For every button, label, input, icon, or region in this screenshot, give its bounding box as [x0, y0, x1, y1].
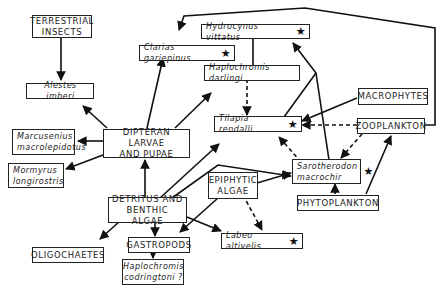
node-haplochromis-darlingi: Haplochromis darlingi: [204, 65, 300, 81]
node-label: PHYTOPLANKTON: [297, 198, 379, 209]
node-marcusenius-macrolepidotus: Marcusenius macrolepidotus: [12, 129, 75, 155]
node-mormyrus-longirostris: Mormyrus longirostris: [8, 163, 64, 188]
node-label-line2: longirostris: [13, 176, 64, 187]
node-tilapia-rendalli: Tilapia rendalli ★: [214, 116, 302, 132]
node-dipteran-larvae-pupae: DIPTERAN LARVAE AND PUPAE: [103, 129, 190, 158]
node-label-line2: macrolepidotus: [17, 142, 86, 153]
edge-zooplankton-sarotherodon: [341, 134, 362, 158]
node-label-line2: AND PUPAE: [107, 149, 186, 160]
star-icon: ★: [288, 119, 298, 130]
node-macrophytes: MACROPHYTES: [358, 88, 428, 105]
edge-sarotherodon-hydrocynus: [316, 73, 329, 160]
star-icon: ★: [364, 166, 374, 177]
edge-epiphytic-labeo: [243, 195, 262, 230]
node-haplochromis-codringtoni: Haplochromis codringtoni ?: [122, 259, 184, 285]
node-label: Alestes imberi: [31, 80, 90, 102]
node-gastropods: GASTROPODS: [128, 237, 190, 253]
food-web-diagram: TERRESTRIAL INSECTS Alestes imberi Clari…: [0, 0, 445, 292]
node-detritus-benthic-algae: DETRITUS AND BENTHIC ALGAE: [108, 197, 187, 223]
edge-dipteran-clarias: [147, 58, 163, 128]
node-label-line1: Mormyrus: [13, 165, 64, 176]
star-icon: ★: [296, 26, 306, 37]
edge-dipteran-alestes: [83, 106, 107, 128]
node-label: ZOOPLANKTON: [355, 121, 426, 132]
node-sarotherodon-macrochir: Sarotherodon macrochir ★: [292, 159, 361, 184]
node-label-line2: macrochir: [297, 172, 358, 183]
node-label-line2: ALGAE: [209, 186, 258, 197]
node-epiphytic-algae: EPIPHYTIC ALGAE: [208, 172, 258, 199]
node-label-line2: INSECTS: [30, 27, 94, 38]
node-label-line1: Sarotherodon: [297, 161, 358, 172]
node-alestes-imberi: Alestes imberi: [26, 83, 94, 99]
node-labeo-altivelis: Labeo altivelis ★: [221, 233, 303, 249]
node-label: Tilapia rendalli: [219, 113, 283, 135]
edge-epiphytic-sarotherodon: [257, 173, 291, 183]
node-label: Haplochromis darlingi: [209, 62, 296, 84]
star-icon: ★: [221, 48, 231, 59]
node-label-line1: TERRESTRIAL: [30, 16, 94, 27]
node-hydrocynus-vittatus: Hydrocynus vittatus ★: [201, 24, 310, 39]
edge-dipteran-mormyrus: [66, 155, 103, 169]
node-zooplankton: ZOOPLANKTON: [357, 118, 425, 134]
node-label: OLIGOCHAETES: [31, 250, 105, 261]
node-label: GASTROPODS: [126, 240, 191, 251]
edge-detritus-labeo: [187, 217, 221, 231]
node-label-line1: DIPTERAN LARVAE: [107, 127, 186, 149]
node-label-line2: codringtoni ?: [123, 272, 184, 283]
node-label: Hydrocynus vittatus: [206, 21, 291, 43]
node-terrestrial-insects: TERRESTRIAL INSECTS: [32, 15, 92, 38]
edge-dipteran-darlingi: [175, 93, 211, 128]
node-label-line1: Haplochromis: [123, 261, 184, 272]
node-phytoplankton: PHYTOPLANKTON: [297, 195, 379, 211]
node-label-line1: Marcusenius: [17, 131, 86, 142]
node-clarias-gariepinus: Clarias gariepinus ★: [139, 45, 235, 61]
node-label-line1: DETRITUS AND: [112, 194, 183, 205]
node-label: MACROPHYTES: [358, 91, 429, 102]
node-label: Labeo altivelis: [226, 230, 284, 252]
node-label-line2: BENTHIC ALGAE: [112, 205, 183, 227]
node-label-line1: EPIPHYTIC: [209, 175, 258, 186]
star-icon: ★: [289, 236, 299, 247]
node-oligochaetes: OLIGOCHAETES: [32, 247, 104, 263]
node-label: Clarias gariepinus: [144, 42, 216, 64]
edge-macrophytes-tilapia: [302, 98, 357, 121]
